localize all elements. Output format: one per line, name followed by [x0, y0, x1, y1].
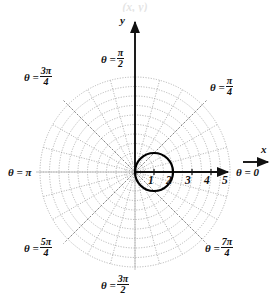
angle-label-lhs: θ =	[101, 53, 116, 65]
angle-label-value: π	[25, 166, 31, 178]
angle-label-denominator: 4	[221, 248, 233, 258]
angle-label-denominator: 2	[117, 285, 129, 295]
angle-label-value: 0	[253, 166, 259, 178]
radial-tick-2: 2	[166, 174, 172, 186]
radial-tick-4: 4	[204, 174, 210, 186]
angle-label-theta-5pi-4: θ =5π4	[24, 237, 52, 258]
angle-label-lhs: θ =	[236, 166, 251, 178]
angle-label-lhs: θ =	[101, 279, 116, 291]
angle-label-lhs: θ =	[210, 81, 225, 93]
angle-label-theta-pi-2: θ =π2	[101, 48, 124, 69]
angle-label-theta-0: θ = 0	[236, 167, 259, 178]
radial-tick-5: 5	[222, 174, 228, 186]
angle-label-lhs: θ =	[8, 166, 23, 178]
angle-label-denominator: 4	[40, 77, 52, 87]
angle-label-denominator: 4	[226, 87, 233, 97]
angle-label-theta-3pi-4: θ =3π4	[24, 66, 52, 87]
angle-label-theta-3pi-2: θ =3π2	[101, 274, 129, 295]
angle-label-lhs: θ =	[24, 71, 39, 83]
angle-label-theta-pi-4: θ =π4	[210, 76, 233, 97]
angle-label-theta-7pi-4: θ =7π4	[205, 237, 233, 258]
angle-label-denominator: 2	[117, 59, 124, 69]
polar-plot-figure	[0, 0, 270, 306]
angle-label-lhs: θ =	[205, 242, 220, 254]
y-axis-label: y	[120, 14, 125, 26]
radial-tick-1: 1	[148, 174, 154, 186]
x-axis-label: x	[261, 143, 267, 155]
angle-label-theta-pi: θ = π	[8, 167, 32, 178]
angle-label-lhs: θ =	[24, 242, 39, 254]
radial-tick-3: 3	[185, 174, 191, 186]
angle-label-denominator: 4	[40, 248, 52, 258]
